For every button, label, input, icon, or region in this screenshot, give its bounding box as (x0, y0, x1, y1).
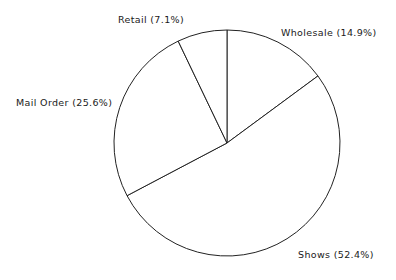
pie-label-wholesale: Wholesale (14.9%) (281, 27, 377, 38)
pie-label-retail: Retail (7.1%) (118, 14, 184, 25)
pie-chart-figure: Retail (7.1%) Wholesale (14.9%) Mail Ord… (0, 0, 396, 280)
pie-chart-canvas (0, 0, 396, 280)
pie-label-shows: Shows (52.4%) (298, 249, 374, 260)
pie-slices-group (114, 30, 340, 256)
pie-label-mail-order: Mail Order (25.6%) (16, 97, 112, 108)
